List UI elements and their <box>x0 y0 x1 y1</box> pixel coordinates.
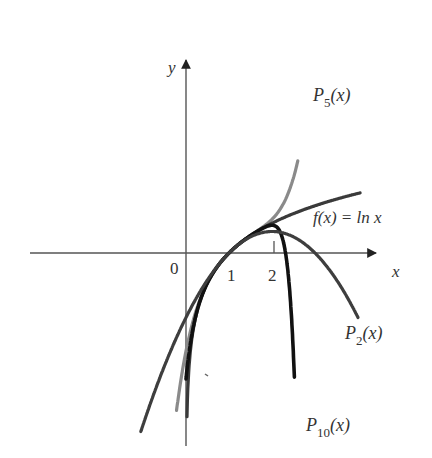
label-p10-sub: 10 <box>317 425 330 440</box>
x-tick-label-1: 1 <box>227 266 236 285</box>
label-p2-main: P <box>344 323 356 343</box>
curve-p2 <box>177 161 298 411</box>
x-tick-label-2: 2 <box>268 266 277 285</box>
label-p5: P5(x) <box>312 85 350 110</box>
x-axis-label: x <box>391 262 400 281</box>
label-p10-tail: (x) <box>330 415 350 436</box>
label-p5-tail: (x) <box>331 85 351 106</box>
origin-label: 0 <box>170 259 179 278</box>
curve-p10 <box>186 225 294 379</box>
scan-speck <box>205 374 208 376</box>
label-ln-x: f(x) = ln x <box>313 208 382 227</box>
label-p2: P2(x) <box>344 323 382 348</box>
label-p10-main: P <box>305 415 317 435</box>
label-p2-tail: (x) <box>363 323 383 344</box>
curves-group <box>141 161 360 432</box>
taylor-polynomial-chart: y x 0 1 2 f(x) = ln x P5(x) P2(x) P10(x) <box>0 0 432 458</box>
label-p10: P10(x) <box>305 415 350 440</box>
label-p5-main: P <box>312 85 324 105</box>
y-axis-label: y <box>166 58 176 77</box>
